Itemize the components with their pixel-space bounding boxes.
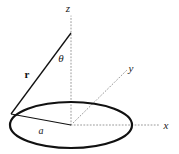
loop-radius-segment bbox=[11, 114, 71, 125]
diagram-canvas: z y x r θ a bbox=[0, 0, 179, 154]
angle-theta-label: θ bbox=[58, 52, 64, 64]
z-axis-label: z bbox=[65, 2, 71, 14]
x-axis-label: x bbox=[163, 119, 169, 131]
y-axis-line bbox=[71, 70, 127, 125]
radius-a-label: a bbox=[39, 125, 44, 136]
y-axis-label: y bbox=[128, 62, 134, 74]
physics-diagram: z y x r θ a bbox=[0, 0, 179, 154]
vector-r-label: r bbox=[25, 68, 30, 80]
